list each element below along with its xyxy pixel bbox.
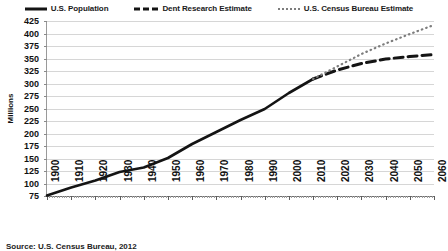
x-axis-tick-minor [417, 196, 418, 198]
x-axis-tick-minor [195, 196, 196, 198]
x-axis-tick-minor [325, 196, 326, 198]
y-axis-tick-label: 125 [0, 166, 39, 176]
x-axis-tick-minor [371, 196, 372, 198]
x-axis-tick-minor [253, 196, 254, 198]
x-axis-tick-minor [141, 196, 142, 198]
y-axis-tick-label: 100 [0, 179, 39, 189]
x-axis-tick-minor [197, 196, 198, 198]
x-axis-tick-label: 2030 [364, 160, 375, 182]
x-axis-tick-minor [388, 196, 389, 198]
x-axis-tick-minor [340, 196, 341, 198]
x-axis-tick-minor [366, 196, 367, 198]
x-axis-tick-minor [173, 196, 174, 198]
x-axis-tick-minor [236, 196, 237, 198]
x-axis-tick-major [95, 196, 96, 200]
x-axis-tick-minor [427, 196, 428, 198]
y-axis-tick-label: 200 [0, 129, 39, 139]
x-axis-tick-minor [390, 196, 391, 198]
x-axis-tick-minor [415, 196, 416, 198]
x-axis-tick-minor [323, 196, 324, 198]
x-axis-tick-major [168, 196, 169, 200]
x-axis-tick-major [386, 196, 387, 200]
x-axis-tick-minor [349, 196, 350, 198]
x-axis-tick-minor [149, 196, 150, 198]
x-axis-tick-major [289, 196, 290, 200]
x-axis-tick-minor [342, 196, 343, 198]
x-axis-tick-minor [158, 196, 159, 198]
x-axis-tick-minor [374, 196, 375, 198]
y-axis-tick-label: 400 [0, 29, 39, 39]
x-axis-tick-minor [78, 196, 79, 198]
x-axis-tick-minor [103, 196, 104, 198]
x-axis-tick-minor [187, 196, 188, 198]
x-axis-tick-major [434, 196, 435, 200]
y-axis-tick-label: 425 [0, 16, 39, 26]
dashed-line-marker-icon [134, 5, 158, 13]
x-axis-tick-minor [209, 196, 210, 198]
x-axis-tick-minor [81, 196, 82, 198]
y-axis-tick-label: 150 [0, 154, 39, 164]
y-axis-tick-label: 375 [0, 41, 39, 51]
x-axis-tick-major [241, 196, 242, 200]
x-axis-tick-minor [207, 196, 208, 198]
x-axis-tick-minor [267, 196, 268, 198]
x-axis-tick-minor [156, 196, 157, 198]
x-axis-tick-minor [139, 196, 140, 198]
x-axis-tick-minor [330, 196, 331, 198]
x-axis-tick-minor [328, 196, 329, 198]
x-axis-tick-minor [383, 196, 384, 198]
x-axis-tick-minor [318, 196, 319, 198]
x-axis-tick-major [313, 196, 314, 200]
x-axis-tick-minor [180, 196, 181, 198]
x-axis-tick-minor [424, 196, 425, 198]
x-axis-tick-minor [255, 196, 256, 198]
x-axis-tick-minor [345, 196, 346, 198]
x-axis-tick-label: 2010 [316, 160, 327, 182]
x-axis-tick-major [265, 196, 266, 200]
y-axis-tick-label: 275 [0, 91, 39, 101]
x-axis-tick-minor [62, 196, 63, 198]
x-axis-tick-minor [243, 196, 244, 198]
x-axis-tick-label: 1900 [50, 160, 61, 182]
x-axis-tick-minor [347, 196, 348, 198]
x-axis-tick-minor [303, 196, 304, 198]
x-axis-tick-minor [59, 196, 60, 198]
x-axis-tick-minor [83, 196, 84, 198]
x-axis-tick-minor [381, 196, 382, 198]
x-axis-tick-minor [163, 196, 164, 198]
legend-item-dent-research-estimate[interactable]: Dent Research Estimate [134, 4, 251, 13]
x-axis-tick-minor [134, 196, 135, 198]
x-axis-tick-label: 2040 [389, 160, 400, 182]
x-axis-tick-label: 2020 [340, 160, 351, 182]
x-axis-tick-label: 1980 [244, 160, 255, 182]
x-axis-tick-minor [407, 196, 408, 198]
x-axis-tick-minor [311, 196, 312, 198]
x-axis-tick-major [361, 196, 362, 200]
x-axis-tick-minor [359, 196, 360, 198]
x-axis-tick-minor [153, 196, 154, 198]
x-axis-tick-minor [185, 196, 186, 198]
x-axis-tick-minor [166, 196, 167, 198]
x-axis-tick-minor [412, 196, 413, 198]
y-axis-tick-label: 350 [0, 54, 39, 64]
x-axis-tick-minor [224, 196, 225, 198]
x-axis-tick-minor [279, 196, 280, 198]
y-axis-tick-label: 300 [0, 79, 39, 89]
x-axis-tick-minor [146, 196, 147, 198]
x-axis-tick-minor [129, 196, 130, 198]
legend-label: U.S. Population [51, 4, 109, 13]
x-axis-tick-label: 1950 [171, 160, 182, 182]
legend-item-us-population[interactable]: U.S. Population [25, 4, 109, 13]
x-axis-tick-minor [299, 196, 300, 198]
x-axis-tick-minor [270, 196, 271, 198]
legend-label: U.S. Census Bureau Estimate [304, 4, 413, 13]
x-axis-tick-minor [93, 196, 94, 198]
x-axis-tick-minor [291, 196, 292, 198]
x-axis-tick-minor [306, 196, 307, 198]
x-axis-tick-minor [124, 196, 125, 198]
x-axis-tick-minor [335, 196, 336, 198]
x-axis-tick-major [216, 196, 217, 200]
legend-item-us-census-bureau-estimate[interactable]: U.S. Census Bureau Estimate [278, 4, 413, 13]
x-axis-tick-minor [170, 196, 171, 198]
